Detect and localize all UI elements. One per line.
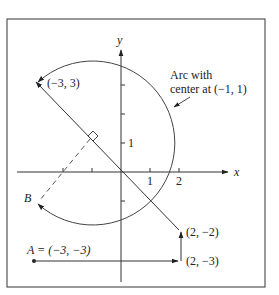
diagonal-segment xyxy=(36,82,179,230)
label-point-A: A = (−3, −3) xyxy=(26,243,90,257)
label-point-m3-3: (−3, 3) xyxy=(47,76,80,90)
arc-note-line1: Arc with xyxy=(170,68,212,82)
label-point-2-m3: (2, −3) xyxy=(186,254,219,268)
arc-note-line2: center at (−1, 1) xyxy=(170,82,247,96)
x-axis-label: x xyxy=(233,165,240,179)
y-tick-1: 1 xyxy=(128,136,134,150)
y-axis-label: y xyxy=(116,33,123,47)
diagram: x y 1 2 1 Arc with center at (−1, 1) (−3… xyxy=(0,0,279,295)
label-point-B: B xyxy=(24,191,32,205)
x-tick-2: 2 xyxy=(176,174,182,188)
dashed-segment xyxy=(40,139,90,200)
arc-note-pointer xyxy=(174,97,190,107)
x-tick-1: 1 xyxy=(147,174,153,188)
label-point-2-m2: (2, −2) xyxy=(186,225,219,239)
